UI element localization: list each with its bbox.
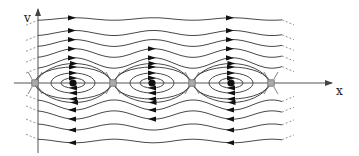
dashed-continuation xyxy=(282,96,294,101)
flow-arrow-icon xyxy=(70,61,78,66)
flow-arrow-icon xyxy=(68,15,76,20)
saddle-branch xyxy=(116,87,120,94)
flow-arrow-icon xyxy=(148,55,156,60)
flow-arrow-icon xyxy=(149,61,157,66)
flow-arrow-icon xyxy=(226,46,234,51)
flow-arrow-icon xyxy=(226,107,234,112)
dashed-continuation xyxy=(26,106,38,111)
saddle-point xyxy=(32,80,38,86)
flow-arrow-icon xyxy=(148,70,156,75)
flow-arrow-icon xyxy=(148,46,156,51)
dashed-continuation xyxy=(26,119,38,124)
center-point xyxy=(148,79,155,86)
trajectories-group xyxy=(26,15,294,145)
dashed-continuation xyxy=(26,57,38,62)
flow-arrow-icon xyxy=(226,37,234,42)
flow-arrow-icon xyxy=(68,140,76,145)
dashed-continuation xyxy=(282,107,294,112)
upper-trajectory xyxy=(38,40,282,47)
x-axis-label: x xyxy=(336,84,343,98)
flow-arrow-icon xyxy=(226,140,234,145)
flow-arrow-icon xyxy=(68,116,76,121)
dashed-continuation xyxy=(282,35,294,40)
flow-arrow-icon xyxy=(148,116,156,121)
flow-arrow-icon xyxy=(68,55,76,60)
flow-arrow-icon xyxy=(227,70,235,75)
dashed-continuation xyxy=(26,134,38,139)
upper-trajectory xyxy=(38,49,282,58)
y-axis-label: v xyxy=(23,11,31,25)
flow-arrow-icon xyxy=(68,28,76,33)
dashed-continuation xyxy=(282,45,294,50)
dashed-continuation xyxy=(26,35,38,40)
saddle-point xyxy=(189,80,195,86)
flow-arrow-icon xyxy=(68,107,76,112)
dashed-continuation xyxy=(282,135,294,140)
flow-arrow-icon xyxy=(226,15,234,20)
flow-arrow-icon xyxy=(69,90,77,95)
saddle-branch xyxy=(274,87,278,94)
saddle-point xyxy=(110,80,116,86)
flow-arrow-icon xyxy=(228,100,236,105)
dashed-continuation xyxy=(282,120,294,125)
dashed-continuation xyxy=(26,95,38,100)
flow-arrow-icon xyxy=(68,46,76,51)
center-point xyxy=(69,79,76,86)
dashed-continuation xyxy=(282,67,294,72)
flow-arrow-icon xyxy=(228,61,236,66)
flow-arrow-icon xyxy=(148,90,156,95)
saddle-branch xyxy=(274,72,278,79)
flow-arrow-icon xyxy=(68,37,76,42)
upper-trajectory xyxy=(38,31,282,36)
flow-arrow-icon xyxy=(227,90,235,95)
dashed-continuation xyxy=(282,20,294,25)
phase-portrait-diagram: x v xyxy=(0,0,359,156)
saddle-branch xyxy=(195,72,199,79)
flow-arrow-icon xyxy=(226,55,234,60)
flow-arrow-icon xyxy=(226,28,234,33)
dashed-continuation xyxy=(26,46,38,51)
flow-arrow-icon xyxy=(69,70,77,75)
flow-arrow-icon xyxy=(226,116,234,121)
saddle-branch xyxy=(195,87,199,94)
flow-arrow-icon xyxy=(149,100,157,105)
saddle-point xyxy=(268,80,274,86)
flow-arrow-icon xyxy=(68,127,76,132)
flow-arrow-icon xyxy=(148,107,156,112)
center-point xyxy=(227,79,234,86)
saddle-branch xyxy=(28,72,32,79)
saddle-branch xyxy=(116,72,120,79)
flow-arrow-icon xyxy=(70,100,78,105)
saddle-branch xyxy=(28,87,32,94)
dashed-continuation xyxy=(282,56,294,61)
flow-arrow-icon xyxy=(226,127,234,132)
